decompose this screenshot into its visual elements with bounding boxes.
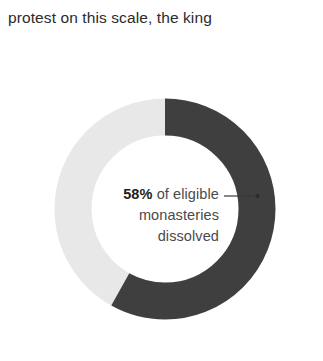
center-label-line-2: monasteries	[70, 205, 219, 226]
center-label-line-3: dissolved	[70, 226, 219, 247]
leader-line	[224, 191, 260, 201]
center-label-line-1: 58% of eligible	[70, 184, 219, 205]
percentage-value: 58%	[123, 186, 152, 202]
percentage-suffix: of eligible	[153, 186, 220, 202]
figure-container: protest on this scale, the king 58% of e…	[0, 0, 323, 361]
donut-center-label: 58% of eligible monasteries dissolved	[70, 184, 219, 247]
caption-text: protest on this scale, the king	[8, 8, 212, 28]
